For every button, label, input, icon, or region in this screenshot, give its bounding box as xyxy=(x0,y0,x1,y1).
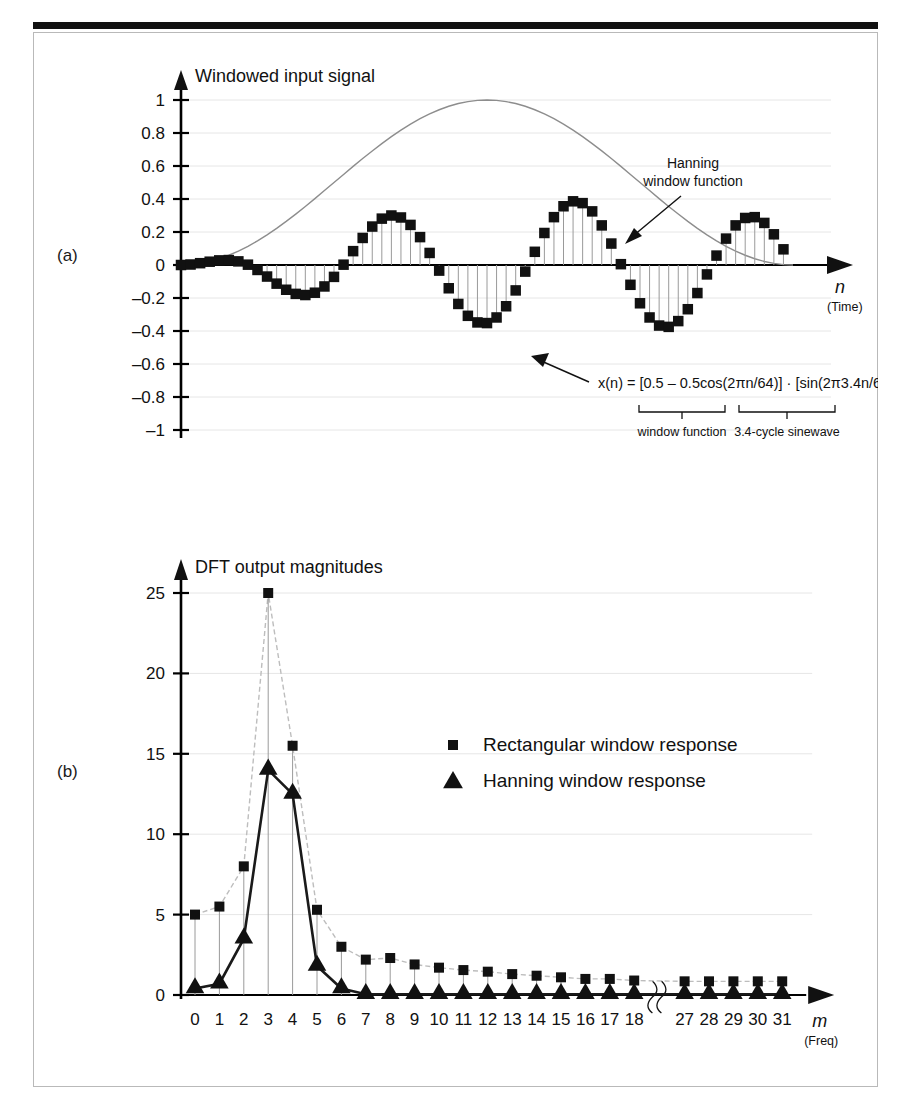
chart-windowed-input-signal: Windowed input signal10.80.60.40.20–0.2–… xyxy=(33,40,878,460)
y-tick-label-b: 25 xyxy=(146,584,165,603)
x-axis-label-b: m xyxy=(812,1011,827,1031)
x-tick-label-b: 28 xyxy=(700,1010,719,1029)
hanning-marker xyxy=(527,983,546,999)
y-tick-label-a: –0.6 xyxy=(132,355,165,374)
sample-marker xyxy=(300,290,311,301)
hanning-marker xyxy=(210,972,229,988)
sample-marker xyxy=(530,247,541,257)
hanning-marker xyxy=(332,977,351,993)
sample-marker xyxy=(769,229,780,240)
y-tick-label-a: 0.8 xyxy=(141,124,165,143)
sample-marker xyxy=(501,301,512,312)
hanning-marker xyxy=(308,955,327,971)
hanning-annotation-line2: window function xyxy=(642,173,743,189)
y-axis-arrow-b xyxy=(174,559,188,580)
sample-marker xyxy=(606,238,617,249)
x-tick-label-b: 8 xyxy=(385,1010,394,1029)
sample-marker xyxy=(711,250,722,261)
legend-label-hanning: Hanning window response xyxy=(483,770,706,791)
sample-marker xyxy=(214,255,225,266)
sample-marker xyxy=(510,285,521,296)
sample-marker xyxy=(405,220,416,231)
hanning-response-line xyxy=(195,770,782,994)
sample-marker xyxy=(377,213,388,224)
sample-marker xyxy=(778,244,789,255)
hanning-marker xyxy=(381,983,400,999)
sample-marker xyxy=(367,221,378,232)
hanning-marker xyxy=(724,983,743,999)
sample-marker xyxy=(472,317,483,328)
hanning-marker xyxy=(454,983,473,999)
hanning-marker xyxy=(552,983,571,999)
sample-marker xyxy=(348,246,359,257)
x-tick-label-b: 27 xyxy=(675,1010,694,1029)
sample-marker xyxy=(453,299,464,310)
x-tick-label-b: 13 xyxy=(503,1010,522,1029)
rectangular-marker xyxy=(458,965,468,975)
sample-marker xyxy=(673,316,684,327)
rectangular-marker xyxy=(361,955,371,965)
sample-marker xyxy=(396,212,407,223)
x-tick-label-b: 1 xyxy=(215,1010,224,1029)
sample-marker xyxy=(281,285,292,296)
sample-marker xyxy=(415,232,426,243)
y-tick-label-a: –0.4 xyxy=(132,322,165,341)
hanning-marker xyxy=(503,983,522,999)
sample-marker xyxy=(577,198,588,209)
y-tick-label-a: –1 xyxy=(146,421,165,440)
rectangular-marker xyxy=(580,974,590,984)
rectangular-marker xyxy=(288,741,298,751)
y-tick-label-b: 15 xyxy=(146,745,165,764)
x-tick-label-b: 7 xyxy=(361,1010,370,1029)
x-tick-label-b: 16 xyxy=(576,1010,595,1029)
sample-marker xyxy=(568,196,579,207)
sample-marker xyxy=(625,280,636,291)
sample-marker xyxy=(329,272,340,283)
x-axis-sublabel-b: (Freq) xyxy=(804,1034,838,1048)
y-tick-label-a: 0.6 xyxy=(141,157,165,176)
hanning-marker xyxy=(700,983,719,999)
window-function-brace-bracket xyxy=(639,405,725,412)
hanning-marker xyxy=(235,927,254,943)
rectangular-marker xyxy=(239,861,249,871)
sample-marker xyxy=(721,233,732,244)
window-function-brace-label: window function xyxy=(637,425,727,439)
sample-marker xyxy=(252,265,263,276)
panel-a-plot: Windowed input signal10.80.60.40.20–0.2–… xyxy=(132,66,878,440)
sample-marker xyxy=(224,255,235,265)
hanning-marker xyxy=(576,983,595,999)
x-tick-label-b: 10 xyxy=(430,1010,449,1029)
y-tick-label-a: 0.2 xyxy=(141,223,165,242)
x-tick-label-b: 9 xyxy=(410,1010,419,1029)
sample-marker xyxy=(597,220,608,231)
hanning-annotation-line1: Hanning xyxy=(667,155,719,171)
x-tick-label-b: 14 xyxy=(527,1010,546,1029)
hanning-marker xyxy=(357,983,376,999)
sample-marker xyxy=(291,289,302,300)
sample-marker xyxy=(740,213,751,224)
x-axis-arrow-a xyxy=(827,256,853,274)
x-tick-label-b: 18 xyxy=(625,1010,644,1029)
rectangular-marker xyxy=(410,959,420,969)
x-tick-label-b: 3 xyxy=(263,1010,272,1029)
sample-marker xyxy=(491,312,502,323)
hanning-marker xyxy=(675,983,694,999)
sample-marker xyxy=(587,206,598,217)
y-tick-label-b: 0 xyxy=(156,986,165,1005)
rectangular-marker xyxy=(507,969,517,979)
sample-marker xyxy=(434,265,445,276)
hanning-marker xyxy=(259,759,278,775)
sample-marker xyxy=(310,287,321,298)
x-tick-label-b: 30 xyxy=(748,1010,767,1029)
sample-marker xyxy=(730,220,741,231)
sample-marker xyxy=(759,218,770,229)
rectangular-marker xyxy=(190,910,200,920)
sample-marker xyxy=(357,233,368,244)
sample-marker xyxy=(549,212,560,223)
sample-marker xyxy=(683,304,694,315)
rectangular-marker xyxy=(385,953,395,963)
sample-marker xyxy=(692,288,703,299)
axis-break-icon xyxy=(657,981,666,1013)
sample-marker xyxy=(644,312,655,323)
chart-dft-output-magnitudes: DFT output magnitudes2520151050m(Freq)01… xyxy=(33,555,878,1075)
